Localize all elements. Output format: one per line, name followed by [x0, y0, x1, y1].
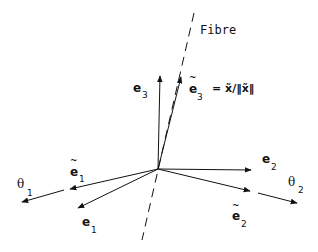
e2-label: e 2 — [262, 152, 277, 172]
fibre-axis — [142, 13, 194, 240]
svg-text:3: 3 — [142, 90, 148, 100]
e2-tilde-label: ~ e 2 — [232, 200, 247, 229]
e2-tilde-arrow — [158, 169, 250, 191]
e1-label: e 1 — [82, 215, 97, 235]
svg-text:e: e — [262, 152, 270, 166]
svg-text:1: 1 — [79, 174, 85, 184]
e3-arrow — [158, 76, 160, 169]
e3-tilde-definition: = x̃/‖x̃‖ — [212, 82, 254, 95]
e2-arrow — [158, 169, 251, 170]
svg-text:~: ~ — [189, 72, 197, 82]
svg-text:e: e — [189, 82, 197, 96]
e3-label: e 3 — [133, 81, 148, 100]
svg-text:1: 1 — [27, 188, 33, 198]
theta2-label: θ 2 — [288, 175, 304, 195]
svg-text:e: e — [232, 209, 240, 223]
e1-arrow — [78, 169, 158, 208]
theta1-label: θ 1 — [17, 177, 33, 198]
svg-text:e: e — [82, 215, 90, 229]
e1-tilde-label: ~ e 1 — [70, 155, 85, 184]
fibre-label: Fibre — [200, 23, 236, 37]
svg-text:3: 3 — [197, 92, 203, 102]
svg-text:~: ~ — [70, 155, 78, 165]
svg-text:2: 2 — [298, 185, 304, 195]
svg-text:e: e — [133, 81, 141, 95]
frame-rotation-diagram: Fibre e 3 ~ e 3 = x̃/‖x̃‖ e 2 ~ e 2 θ 2 … — [0, 0, 318, 252]
svg-text:θ: θ — [17, 177, 24, 191]
svg-text:1: 1 — [91, 225, 97, 235]
theta2-arrow — [258, 193, 297, 203]
e3-tilde-label: ~ e 3 — [189, 72, 203, 102]
svg-text:2: 2 — [241, 219, 247, 229]
e3-tilde-arrow — [158, 77, 181, 169]
svg-text:e: e — [70, 165, 78, 179]
svg-text:2: 2 — [271, 162, 277, 172]
svg-text:θ: θ — [288, 175, 295, 189]
